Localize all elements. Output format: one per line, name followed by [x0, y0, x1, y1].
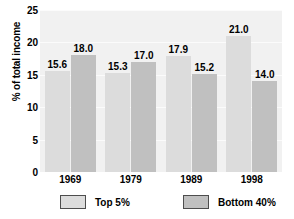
- bar-value-label: 17.9: [169, 44, 188, 55]
- legend-swatch: [60, 195, 86, 209]
- y-tick-label: 20: [14, 37, 38, 48]
- legend-swatch: [183, 195, 209, 209]
- y-tick-label: 25: [14, 5, 38, 16]
- chart-legend: Top 5%Bottom 40%: [60, 193, 288, 213]
- x-tick-label: 1979: [120, 174, 142, 185]
- x-tick-label: 1989: [180, 174, 202, 185]
- bar[interactable]: 15.3: [105, 73, 130, 172]
- bar-value-label: 18.0: [74, 43, 93, 54]
- legend-item[interactable]: Top 5%: [60, 193, 130, 211]
- bars-layer: 15.618.015.317.017.915.221.014.0: [40, 10, 282, 172]
- legend-label: Top 5%: [95, 197, 130, 208]
- bar[interactable]: 15.6: [45, 71, 70, 172]
- bar-value-label: 15.6: [48, 59, 67, 70]
- bar-group: 17.915.2: [161, 10, 222, 172]
- legend-item[interactable]: Bottom 40%: [183, 193, 276, 211]
- bar-group: 15.618.0: [40, 10, 101, 172]
- bar-value-label: 15.3: [108, 61, 127, 72]
- bar-value-label: 15.2: [195, 62, 214, 73]
- x-tick-label: 1969: [59, 174, 81, 185]
- y-tick-label: 5: [14, 134, 38, 145]
- bar-value-label: 21.0: [229, 24, 248, 35]
- legend-label: Bottom 40%: [218, 197, 276, 208]
- x-tick-label: 1998: [241, 174, 263, 185]
- bar-chart-figure: % of total income 0510152025 15.618.015.…: [0, 0, 294, 219]
- bar[interactable]: 17.9: [166, 56, 191, 172]
- bar-value-label: 14.0: [255, 69, 274, 80]
- bar[interactable]: 18.0: [71, 55, 96, 172]
- bar-value-label: 17.0: [134, 50, 153, 61]
- x-axis-tick-labels: 1969197919891998: [40, 174, 282, 188]
- bar[interactable]: 21.0: [226, 36, 251, 172]
- y-axis-tick-labels: 0510152025: [14, 10, 38, 172]
- bar[interactable]: 14.0: [252, 81, 277, 172]
- bar-group: 15.317.0: [101, 10, 162, 172]
- y-tick-label: 0: [14, 167, 38, 178]
- plot-area: 15.618.015.317.017.915.221.014.0: [40, 10, 282, 172]
- bar-group: 21.014.0: [222, 10, 283, 172]
- y-tick-label: 10: [14, 102, 38, 113]
- bar[interactable]: 15.2: [192, 74, 217, 172]
- y-tick-label: 15: [14, 69, 38, 80]
- bar[interactable]: 17.0: [131, 62, 156, 172]
